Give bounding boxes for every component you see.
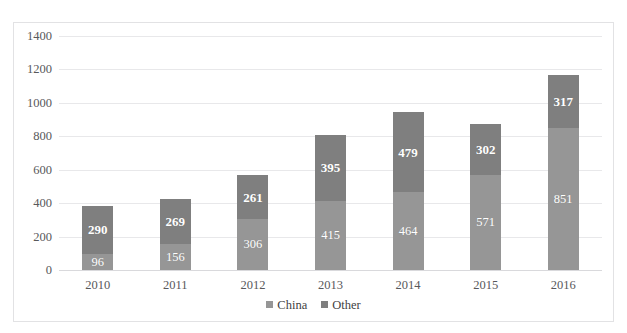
- x-axis-tick-label: 2011: [144, 279, 206, 292]
- bar-stack[interactable]: 29096: [82, 206, 113, 271]
- bar-value-label-other: 317: [553, 95, 573, 108]
- bar-segment-china[interactable]: 156: [160, 244, 191, 270]
- bar-value-label-china: 96: [92, 256, 105, 269]
- clipped-caption: [0, 0, 627, 4]
- bar-segment-china[interactable]: 306: [237, 219, 268, 270]
- legend-item[interactable]: China: [266, 299, 307, 312]
- bar-value-label-china: 571: [476, 216, 495, 229]
- bar-group[interactable]: 395415: [300, 36, 362, 270]
- x-axis-tick-label: 2013: [300, 279, 362, 292]
- bar-segment-china[interactable]: 415: [315, 201, 346, 270]
- bar-value-label-china: 156: [166, 251, 185, 264]
- x-axis-tick-label: 2014: [377, 279, 439, 292]
- legend-swatch-icon: [266, 301, 273, 308]
- y-axis-tick-label: 600: [33, 163, 52, 176]
- bar-value-label-other: 302: [476, 143, 496, 156]
- x-axis-tick-label: 2016: [532, 279, 594, 292]
- plot-area: 1400120010008006004002000 29096269156261…: [59, 36, 602, 270]
- bar-stack[interactable]: 302571: [470, 124, 501, 270]
- bar-value-label-china: 464: [399, 225, 418, 238]
- bar-segment-other[interactable]: 302: [470, 124, 501, 174]
- bar-segment-other[interactable]: 317: [548, 75, 579, 128]
- chart-legend: ChinaOther: [14, 299, 613, 312]
- x-axis-tick-label: 2010: [67, 279, 129, 292]
- bar-group[interactable]: 479464: [377, 36, 439, 270]
- y-axis-tick-label: 0: [46, 264, 52, 277]
- bar-group[interactable]: 261306: [222, 36, 284, 270]
- bar-series-group: 2909626915626130639541547946430257131785…: [59, 36, 602, 270]
- bar-group[interactable]: 29096: [67, 36, 129, 270]
- y-axis-tick-label: 1200: [27, 63, 52, 76]
- chart-frame: 1400120010008006004002000 29096269156261…: [13, 22, 614, 322]
- x-axis-tick-label: 2015: [455, 279, 517, 292]
- y-axis-tick-label: 200: [33, 230, 52, 243]
- bar-segment-other[interactable]: 269: [160, 199, 191, 244]
- bar-value-label-other: 479: [398, 146, 418, 159]
- y-axis-tick-label: 1000: [27, 97, 52, 110]
- bar-value-label-china: 306: [244, 238, 263, 251]
- bar-stack[interactable]: 479464: [393, 112, 424, 270]
- x-axis-line: [59, 270, 602, 271]
- y-axis-tick-label: 400: [33, 197, 52, 210]
- legend-label: Other: [332, 299, 360, 312]
- bar-group[interactable]: 269156: [144, 36, 206, 270]
- bar-segment-china[interactable]: 851: [548, 128, 579, 270]
- y-axis-tick-label: 1400: [27, 30, 52, 43]
- bar-segment-china[interactable]: 571: [470, 175, 501, 270]
- bar-stack[interactable]: 269156: [160, 199, 191, 270]
- bar-segment-china[interactable]: 96: [82, 254, 113, 270]
- bar-segment-other[interactable]: 290: [82, 206, 113, 254]
- bar-value-label-china: 851: [554, 193, 573, 206]
- bar-segment-other[interactable]: 261: [237, 175, 268, 219]
- bar-value-label-other: 395: [321, 161, 341, 174]
- legend-swatch-icon: [321, 301, 328, 308]
- bar-segment-other[interactable]: 479: [393, 112, 424, 192]
- y-axis-tick-label: 800: [33, 130, 52, 143]
- bar-segment-other[interactable]: 395: [315, 135, 346, 201]
- bar-stack[interactable]: 395415: [315, 135, 346, 270]
- bar-value-label-other: 269: [166, 215, 186, 228]
- bar-value-label-china: 415: [321, 229, 340, 242]
- legend-label: China: [277, 299, 307, 312]
- x-axis-tick-label: 2012: [222, 279, 284, 292]
- bar-value-label-other: 261: [243, 191, 263, 204]
- bar-group[interactable]: 317851: [532, 36, 594, 270]
- bar-value-label-other: 290: [88, 223, 108, 236]
- bar-segment-china[interactable]: 464: [393, 192, 424, 270]
- bar-stack[interactable]: 317851: [548, 75, 579, 270]
- bar-group[interactable]: 302571: [455, 36, 517, 270]
- bar-stack[interactable]: 261306: [237, 175, 268, 270]
- legend-item[interactable]: Other: [321, 299, 360, 312]
